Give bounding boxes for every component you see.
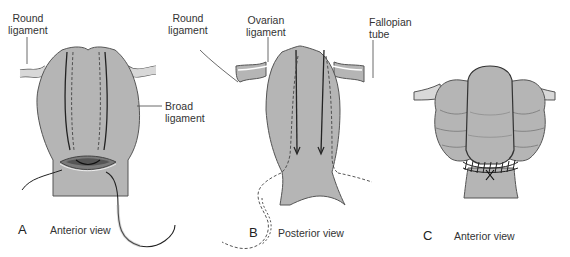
label-broad-ligament: Broad ligament [165,100,205,124]
label-round-ligament-b: Round ligament [168,12,208,36]
uterus-diagram [0,0,570,257]
panel-c-figure [414,66,555,198]
label-line: Ovarian [246,14,286,26]
label-line: ligament [246,26,286,38]
panel-letter-b: B [249,225,258,240]
panel-letter-c: C [423,228,432,243]
uterus-body-b [266,46,345,205]
panel-letter-a: A [18,222,27,237]
panel-b-figure [200,37,373,249]
label-line: Broad [165,100,205,112]
label-line: Round [8,12,48,24]
view-label-a: Anterior view [50,224,111,236]
label-line: ligament [165,112,205,124]
label-round-ligament-a: Round ligament [8,12,48,36]
label-line: Fallopian [369,16,412,28]
label-fallopian-tube: Fallopian tube [369,16,412,40]
label-line: ligament [168,24,208,36]
label-line: ligament [8,24,48,36]
label-line: Round [168,12,208,24]
label-ovarian-ligament: Ovarian ligament [246,14,286,38]
label-line: tube [369,28,412,40]
view-label-c: Anterior view [454,230,515,242]
view-label-b: Posterior view [278,227,344,239]
panel-a-figure [20,37,175,247]
